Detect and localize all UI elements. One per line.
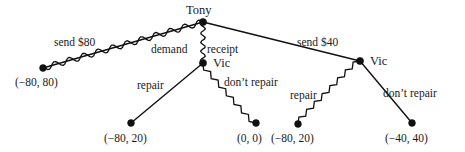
terminal-node-term-d	[295, 121, 302, 128]
game-tree-diagram: TonyVicVic send $80demandreceiptsend $40…	[0, 0, 465, 152]
action-label-send-40: send $40	[297, 37, 338, 49]
terminal-node-term-c	[253, 120, 260, 127]
action-label-repair-right: repair	[290, 90, 317, 102]
payoff-label-e: (−40, 40)	[385, 133, 428, 145]
payoff-label-b: (−80, 20)	[104, 133, 147, 145]
payoff-label-c: (0, 0)	[237, 133, 262, 145]
edge-repair-left	[131, 63, 203, 123]
decision-node-vic-left	[199, 59, 206, 66]
edges-group	[43, 20, 413, 124]
terminal-node-term-b	[128, 120, 135, 127]
edge-demand-receipt	[201, 22, 206, 63]
decision-node-vic-right	[356, 57, 363, 64]
action-label-repair-left: repair	[137, 80, 164, 92]
nodes-group	[40, 18, 416, 127]
payoff-label-a: (−80, 80)	[15, 77, 58, 89]
edge-dont-repair-left	[203, 63, 256, 123]
decision-node-tony-root	[199, 18, 206, 25]
action-label-dont-repair-right: don’t repair	[383, 88, 437, 100]
action-label-send-80: send $80	[54, 37, 95, 49]
player-label-vic-right: Vic	[370, 55, 387, 68]
action-label-demand: demand	[151, 44, 187, 56]
player-label-vic-left: Vic	[213, 57, 230, 70]
action-label-receipt: receipt	[207, 44, 238, 56]
terminal-node-term-a	[40, 65, 47, 72]
payoff-label-d: (−80, 20)	[271, 133, 314, 145]
terminal-node-term-e	[409, 120, 416, 127]
action-label-dont-repair-left: don’t repair	[224, 77, 278, 89]
player-label-tony: Tony	[186, 4, 212, 17]
